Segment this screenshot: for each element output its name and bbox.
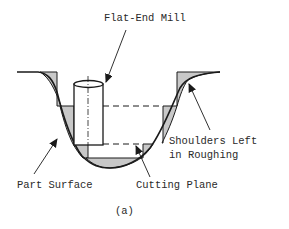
diagram-canvas: Flat-End Mill Shoulders Left in Roughing…: [0, 0, 289, 229]
right-upper-shoulder: [177, 72, 220, 106]
cutting-plane-label: Cutting Plane: [136, 179, 218, 191]
bottom-band: [86, 158, 141, 168]
shoulders-leader: [189, 84, 210, 130]
figure-caption: (a): [115, 205, 134, 217]
part-surface-leader: [34, 139, 57, 174]
part-surface-label: Part Surface: [17, 179, 93, 191]
roughing-shoulders-diagram: Flat-End Mill Shoulders Left in Roughing…: [0, 0, 289, 229]
shoulders-label-line1: Shoulders Left: [169, 135, 257, 147]
tool-leader: [106, 30, 126, 82]
left-upper-shoulder: [40, 72, 61, 106]
tool-label: Flat-End Mill: [104, 12, 186, 24]
flat-end-mill: [74, 76, 103, 145]
shoulders-label-line2: in Roughing: [169, 149, 238, 161]
